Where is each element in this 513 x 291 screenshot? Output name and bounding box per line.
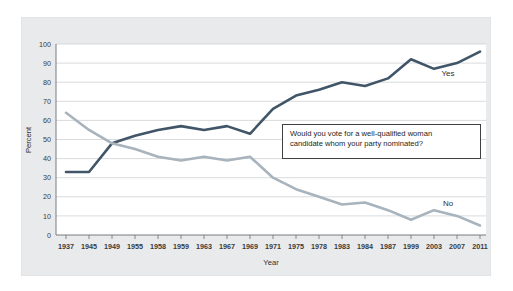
- question-callout-text: Would you vote for a well-qualified woma…: [290, 129, 473, 150]
- y-tick-label: 70: [43, 97, 51, 106]
- x-tick-label: 1984: [357, 242, 373, 251]
- y-tick-label: 100: [39, 40, 51, 49]
- x-tick-labels: 1937194519491955195819591963196719691971…: [58, 242, 488, 251]
- x-tick-label: 1999: [403, 242, 419, 251]
- x-tick-label: 1969: [242, 242, 258, 251]
- y-tick-label: 20: [43, 192, 51, 201]
- x-tick-label: 1978: [311, 242, 327, 251]
- question-callout: Would you vote for a well-qualified woma…: [282, 124, 481, 159]
- x-tick-label: 1937: [58, 242, 74, 251]
- x-tick-label: 1963: [196, 242, 212, 251]
- y-axis-title: Percent: [24, 126, 33, 153]
- y-tick-label: 90: [43, 59, 51, 68]
- x-tick-label: 1983: [334, 242, 350, 251]
- x-tick-label: 1949: [104, 242, 120, 251]
- x-tick-label: 1959: [173, 242, 189, 251]
- x-tick-label: 1975: [288, 242, 304, 251]
- x-tick-label: 1987: [380, 242, 396, 251]
- series-label-yes: Yes: [441, 69, 454, 78]
- series-label-no: No: [443, 199, 454, 208]
- y-tick-labels: 0102030405060708090100: [39, 40, 51, 240]
- x-tick-marks: [66, 235, 480, 239]
- x-tick-label: 2011: [472, 242, 488, 251]
- x-tick-label: 1958: [150, 242, 166, 251]
- y-tick-label: 30: [43, 173, 51, 182]
- x-tick-label: 1967: [219, 242, 235, 251]
- y-tick-label: 50: [43, 135, 51, 144]
- x-tick-label: 2007: [449, 242, 465, 251]
- y-tick-label: 40: [43, 154, 51, 163]
- x-tick-label: 1945: [81, 242, 97, 251]
- x-axis-title: Year: [263, 258, 279, 267]
- y-tick-label: 80: [43, 78, 51, 87]
- chart-figure: 0102030405060708090100 19371945194919551…: [0, 0, 513, 291]
- x-tick-label: 1955: [127, 242, 143, 251]
- y-tick-label: 60: [43, 116, 51, 125]
- x-tick-label: 2003: [426, 242, 442, 251]
- y-tick-label: 0: [47, 231, 51, 240]
- y-tick-label: 10: [43, 212, 51, 221]
- x-tick-label: 1971: [265, 242, 281, 251]
